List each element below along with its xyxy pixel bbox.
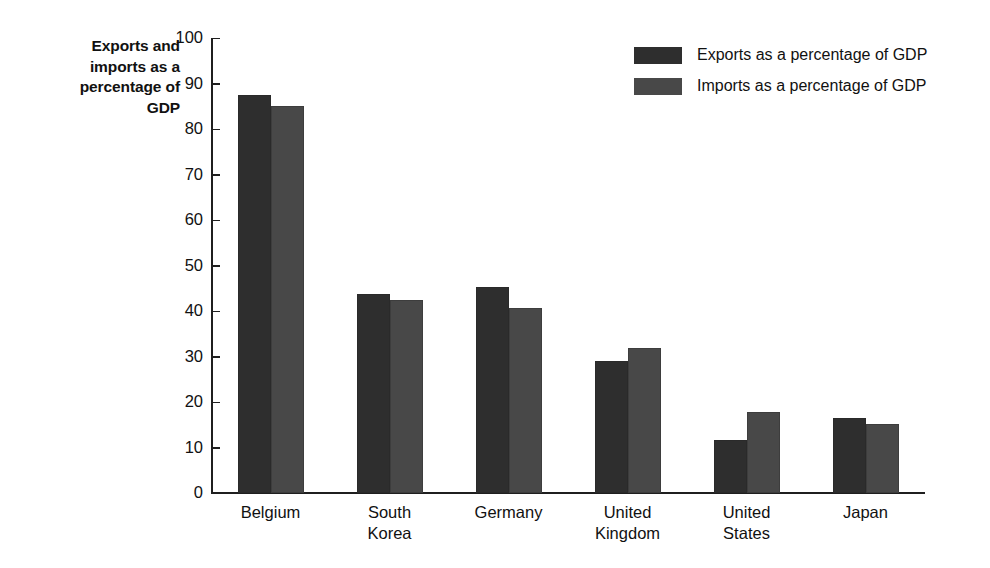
y-axis-tick-label: 80 xyxy=(155,120,203,137)
bar-exports xyxy=(833,418,866,493)
y-axis-tick-label: 90 xyxy=(155,75,203,92)
x-axis-label-line: Japan xyxy=(796,502,936,523)
y-axis-tick-label: 30 xyxy=(155,348,203,365)
y-axis-tick-label: 100 xyxy=(155,29,203,46)
bar-chart: Exports and imports as a percentage of G… xyxy=(0,0,990,568)
bar-exports xyxy=(238,95,271,493)
legend-item-exports: Exports as a percentage of GDP xyxy=(634,46,927,64)
y-axis-tick-label: 50 xyxy=(155,257,203,274)
bar-imports xyxy=(866,424,899,493)
y-axis-tick-label: 20 xyxy=(155,393,203,410)
y-axis-title-line: GDP xyxy=(18,98,180,119)
bar-imports xyxy=(747,412,780,493)
bar-exports xyxy=(357,294,390,493)
y-axis-tick-label: 70 xyxy=(155,166,203,183)
y-axis-tick-label: 40 xyxy=(155,302,203,319)
y-axis-tick-label: 60 xyxy=(155,211,203,228)
y-axis-tick-label: 10 xyxy=(155,439,203,456)
bar-imports xyxy=(271,106,304,493)
legend: Exports as a percentage of GDP Imports a… xyxy=(634,46,927,108)
bar-imports xyxy=(390,300,423,493)
legend-label-imports: Imports as a percentage of GDP xyxy=(697,77,926,95)
legend-swatch-exports-icon xyxy=(634,47,682,64)
legend-label-exports: Exports as a percentage of GDP xyxy=(697,46,927,64)
bar-exports xyxy=(714,440,747,493)
bar-exports xyxy=(476,287,509,493)
legend-item-imports: Imports as a percentage of GDP xyxy=(634,77,927,95)
bar-imports xyxy=(628,348,661,493)
y-axis-tick-label: 0 xyxy=(155,484,203,501)
bar-exports xyxy=(595,361,628,493)
x-axis-label-line: States xyxy=(677,523,817,544)
x-axis-label-line: Korea xyxy=(320,523,460,544)
legend-swatch-imports-icon xyxy=(634,78,682,95)
x-axis-label: Japan xyxy=(796,502,936,523)
bar-imports xyxy=(509,308,542,493)
